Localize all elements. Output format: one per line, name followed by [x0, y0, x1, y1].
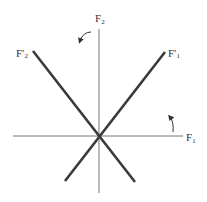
f1-axis-label: F1 — [186, 131, 196, 145]
f-prime-2-axis — [33, 51, 135, 182]
rotation-arrow-right-icon — [170, 117, 173, 132]
f-prime-1-axis — [65, 52, 165, 181]
f-prime-2-label: F′2 — [16, 47, 29, 60]
f-prime-1-label: F′1 — [168, 47, 181, 60]
rotation-arrow-top-icon — [80, 32, 91, 41]
f2-axis-label: F2 — [95, 12, 105, 26]
axis-rotation-diagram: F2 F1 F′2 F′1 — [0, 0, 207, 202]
